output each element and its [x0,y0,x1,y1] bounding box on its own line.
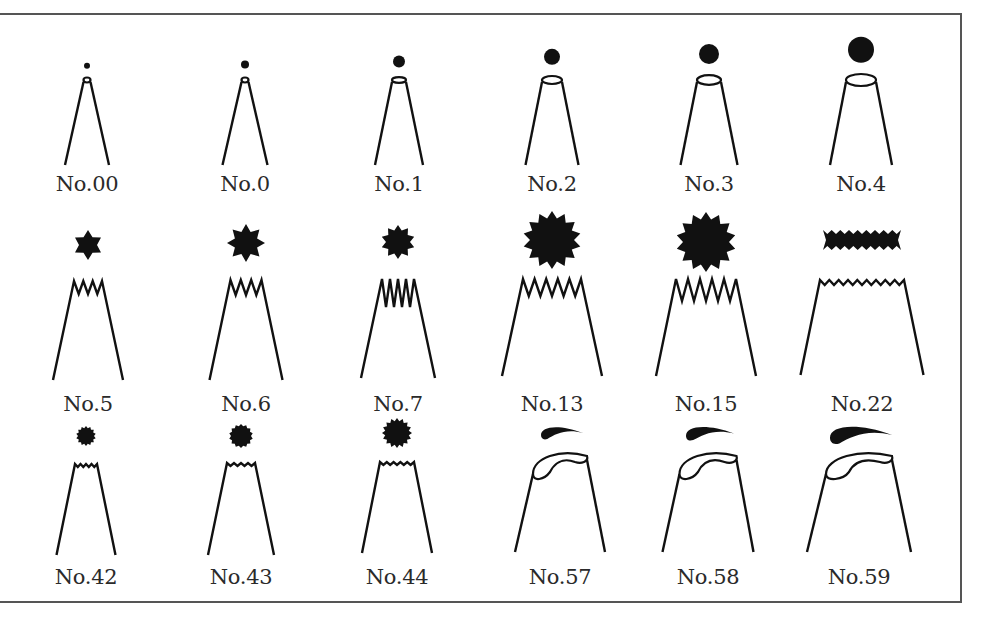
nozzle-side [65,82,84,165]
nozzle-side [375,82,392,165]
tip-no59 [807,427,911,552]
tip-label: No.4 [836,172,886,196]
nozzle-side [526,82,543,165]
nozzle-outline [53,281,123,380]
tip-no43 [208,424,274,555]
tip-no00 [65,63,109,165]
star-icing-icon [382,225,414,259]
tip-no44 [362,418,432,553]
tip-label: No.0 [220,172,270,196]
piping-tip-diagram: No.00No.0No.1No.2No.3No.4No.5No.6No.7No.… [0,0,993,630]
star-icing-icon [229,424,252,448]
tip-no58 [663,427,754,552]
star-icing-icon [677,212,735,272]
round-icing-icon [699,44,719,64]
nozzle-outline [57,464,116,555]
nozzle-outline [502,279,602,376]
nozzle-side [223,82,242,165]
nozzle-opening [826,453,892,479]
tip-label: No.6 [221,392,271,416]
round-icing-icon [544,49,560,65]
round-icing-icon [848,37,874,63]
tip-label: No.15 [675,392,738,416]
nozzle-opening [533,453,587,479]
nozzle-side [681,82,698,165]
tip-label: No.58 [677,565,740,589]
petal-icing-icon [830,427,892,444]
nozzle-opening [680,453,737,479]
nozzle-outline [210,280,283,380]
tip-no2 [526,49,579,165]
tip-no6 [210,224,283,380]
nozzle-side [807,474,826,552]
tip-label: No.59 [828,565,891,589]
tip-label: No.22 [831,392,894,416]
tip-no57 [515,427,605,552]
tip-label: No.7 [373,392,423,416]
petal-icing-icon [686,427,734,441]
tip-label: No.43 [210,565,273,589]
nozzle-side [515,474,533,552]
tip-no15 [656,212,756,376]
tip-no13 [502,211,602,376]
nozzle-outline [208,463,274,555]
tip-no0 [223,60,268,165]
tip-label: No.5 [63,392,113,416]
nozzle-side [830,82,846,165]
nozzle-outline [361,279,435,378]
petal-icing-icon [541,427,583,439]
round-icing-icon [241,60,249,68]
tip-label: No.2 [527,172,577,196]
tip-label: No.13 [521,392,584,416]
tip-no5 [53,230,123,380]
tip-no22 [801,230,924,375]
nozzle-opening [392,77,406,83]
tip-label: No.44 [366,565,429,589]
tip-illustrations [0,0,993,630]
nozzle-opening [84,78,91,83]
round-icing-icon [393,56,405,68]
tip-label: No.3 [684,172,734,196]
tip-no1 [375,56,423,165]
tip-no42 [57,426,116,555]
tip-no7 [361,225,435,378]
round-icing-icon [84,63,90,69]
star-icing-icon [76,426,95,446]
star-icing-icon [382,418,412,448]
nozzle-opening [697,75,721,85]
tip-label: No.42 [55,565,118,589]
tip-no3 [681,44,738,165]
nozzle-outline [656,279,756,376]
tip-no4 [830,37,892,165]
nozzle-outline [801,280,924,375]
star-icing-icon [75,230,101,260]
nozzle-outline [362,462,432,553]
ribbon-icing-icon [823,230,901,250]
nozzle-side [663,474,680,552]
star-icing-icon [524,211,581,269]
nozzle-opening [242,78,249,83]
star-icing-icon [227,224,265,262]
nozzle-opening [846,74,876,86]
nozzle-opening [542,76,562,84]
tip-label: No.00 [56,172,119,196]
tip-label: No.57 [529,565,592,589]
tip-label: No.1 [374,172,424,196]
